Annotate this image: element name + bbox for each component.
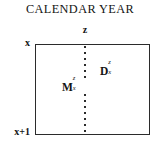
symbol-migrants-superscript: z (73, 75, 76, 82)
symbol-deaths: Dzx (100, 64, 113, 77)
symbol-migrants-base: M (62, 81, 73, 93)
left-axis-label-x-plus-1: x+1 (14, 126, 30, 138)
symbol-deaths-subscript: x (108, 69, 111, 76)
left-axis: x x+1 (0, 0, 33, 152)
calendar-year-diagram: CALENDAR YEAR z x x+1 Mzx Dzx (0, 0, 160, 152)
left-axis-label-x: x (25, 37, 30, 49)
cohort-line-label-gap (80, 80, 91, 94)
calendar-year-box (35, 44, 150, 135)
symbol-migrants-subscript: x (73, 85, 76, 92)
symbol-deaths-superscript: z (108, 59, 111, 66)
symbol-migrants: Mzx (62, 80, 78, 93)
top-axis-label-z: z (78, 24, 92, 36)
symbol-migrants-scripts: zx (73, 80, 78, 91)
symbol-deaths-scripts: zx (108, 64, 113, 75)
